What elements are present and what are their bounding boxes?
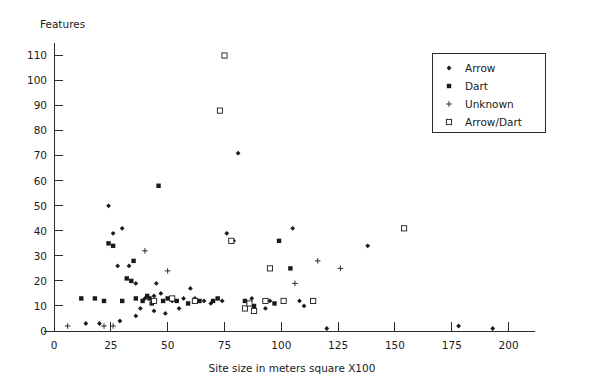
x-tick-label: 100 — [271, 339, 291, 351]
data-point — [177, 306, 182, 311]
x-tick-label: 50 — [161, 339, 174, 351]
data-point — [242, 306, 247, 311]
data-point — [222, 53, 227, 58]
data-point — [152, 294, 157, 299]
legend-marker-open-square-icon — [446, 119, 451, 124]
data-point — [158, 291, 163, 296]
data-point — [211, 299, 215, 303]
data-point — [290, 226, 295, 231]
data-point — [224, 231, 229, 236]
data-point — [111, 244, 115, 248]
data-point — [192, 298, 197, 303]
y-tick-label: 10 — [34, 300, 47, 312]
data-point — [120, 226, 125, 231]
data-point — [302, 304, 307, 309]
x-tick-label: 0 — [51, 339, 58, 351]
legend-label: Arrow/Dart — [465, 116, 522, 128]
data-point — [134, 296, 138, 300]
data-point — [490, 326, 495, 331]
data-point — [152, 309, 157, 314]
data-point — [181, 296, 186, 301]
y-tick-label: 70 — [34, 149, 47, 161]
y-tick-label: 40 — [34, 225, 47, 237]
data-point — [115, 263, 120, 268]
legend-label: Arrow — [465, 62, 496, 74]
x-tick-label: 150 — [385, 339, 405, 351]
data-point — [324, 326, 329, 331]
data-point — [281, 298, 286, 303]
data-point — [133, 281, 138, 286]
data-point — [127, 263, 132, 268]
data-point — [106, 241, 110, 245]
data-point — [161, 299, 165, 303]
series-arrow — [83, 151, 495, 331]
x-axis-title: Site size in meters square X100 — [209, 362, 376, 374]
data-point — [151, 298, 156, 303]
data-point — [365, 243, 370, 248]
y-tick-label: 100 — [27, 74, 47, 86]
data-point — [456, 324, 461, 329]
data-point — [220, 299, 225, 304]
data-point — [263, 298, 268, 303]
data-point — [277, 239, 281, 243]
data-point — [251, 308, 256, 313]
legend-label: Dart — [465, 80, 488, 92]
data-point — [292, 281, 298, 287]
data-point — [102, 299, 106, 303]
data-point — [311, 298, 316, 303]
chart-svg: 0102030405060708090100110025507510012515… — [0, 0, 600, 385]
data-point — [267, 266, 272, 271]
data-point — [125, 276, 129, 280]
data-point — [120, 299, 124, 303]
data-point — [315, 258, 321, 264]
scatter-chart: 0102030405060708090100110025507510012515… — [0, 0, 600, 385]
data-point — [297, 299, 302, 304]
series-arrow-dart — [151, 53, 406, 314]
x-tick-label: 75 — [218, 339, 231, 351]
data-point — [118, 319, 123, 324]
data-point — [401, 226, 406, 231]
data-point — [163, 311, 168, 316]
chart-legend: ArrowDartUnknownArrow/Dart — [432, 53, 545, 132]
data-point — [140, 299, 144, 303]
data-point — [111, 231, 116, 236]
legend-label: Unknown — [465, 98, 514, 110]
data-point — [106, 203, 111, 208]
series-unknown — [65, 248, 343, 329]
legend-marker-filled-square-icon — [447, 84, 451, 88]
data-point — [186, 301, 190, 305]
data-point — [247, 301, 252, 306]
data-point — [83, 321, 88, 326]
x-tick-label: 175 — [442, 339, 462, 351]
data-point — [138, 306, 143, 311]
data-point — [272, 301, 276, 305]
data-point — [131, 259, 135, 263]
data-points — [65, 53, 495, 331]
data-point — [236, 151, 241, 156]
y-tick-label: 90 — [34, 99, 47, 111]
data-point — [101, 323, 107, 329]
y-tick-label: 0 — [40, 325, 47, 337]
data-point — [217, 108, 222, 113]
y-tick-label: 20 — [34, 275, 47, 287]
data-point — [93, 296, 97, 300]
x-tick-label: 125 — [328, 339, 348, 351]
data-point — [229, 238, 234, 243]
y-tick-label: 30 — [34, 250, 47, 262]
x-tick-label: 25 — [104, 339, 117, 351]
data-point — [249, 296, 254, 301]
data-point — [65, 323, 71, 329]
data-point — [156, 184, 160, 188]
data-point — [338, 266, 344, 272]
y-tick-label: 80 — [34, 124, 47, 136]
data-point — [202, 299, 207, 304]
data-point — [142, 248, 148, 254]
y-tick-label: 60 — [34, 175, 47, 187]
data-point — [263, 306, 268, 311]
x-tick-label: 200 — [499, 339, 519, 351]
y-axis-title: Features — [40, 18, 85, 30]
data-point — [188, 286, 193, 291]
y-tick-label: 110 — [27, 49, 47, 61]
data-point — [170, 296, 175, 301]
data-point — [133, 314, 138, 319]
